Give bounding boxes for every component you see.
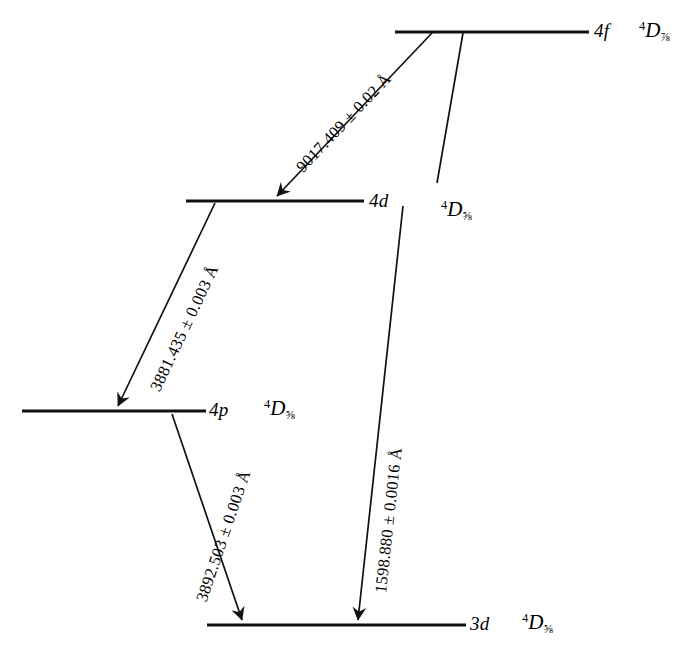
level-label-3d: 3d bbox=[470, 613, 489, 635]
term-symbol-4p: 4D⅝ bbox=[264, 396, 295, 423]
term-letter-3d: D bbox=[528, 610, 543, 634]
term-letter-4f-secondary: D bbox=[447, 197, 462, 221]
term-symbol-4f-secondary: 4D⅝ bbox=[441, 197, 472, 224]
term-symbol-3d: 4D⅝ bbox=[522, 610, 553, 637]
term-j-4f: ⅞ bbox=[660, 30, 669, 44]
level-label-4p: 4p bbox=[209, 399, 228, 421]
level-tick-4f-secondary bbox=[437, 33, 463, 183]
level-label-4f: 4f bbox=[594, 20, 609, 42]
term-j-3d: ⅝ bbox=[543, 622, 552, 636]
term-j-4f-secondary: ⅝ bbox=[462, 209, 471, 223]
level-label-4d: 4d bbox=[369, 190, 388, 212]
term-letter-4f: D bbox=[645, 18, 660, 42]
term-j-4p: ⅝ bbox=[285, 408, 294, 422]
term-letter-4p: D bbox=[270, 396, 285, 420]
energy-level-diagram: 4f 4d 4p 3d 4D⅞ 4D⅝ 4D⅝ 4D⅝ 9017.409 ± 0… bbox=[0, 0, 692, 654]
term-symbol-4f: 4D⅞ bbox=[639, 18, 670, 45]
diagram-canvas bbox=[0, 0, 692, 654]
